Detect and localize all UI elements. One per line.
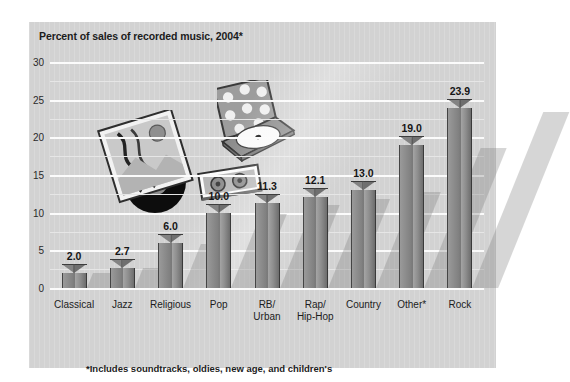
y-tick-label: 15 [33, 170, 44, 181]
bar-center-edge [315, 197, 316, 288]
bar-column: 10.0 [206, 204, 231, 288]
chart-footnote: *Includes soundtracks, oldies, new age, … [86, 363, 332, 374]
bar-value-label: 10.0 [209, 190, 229, 202]
bar-center-edge [218, 213, 219, 288]
bar-column: 2.7 [110, 259, 135, 288]
bar-center-edge [170, 243, 171, 288]
y-tick-label: 25 [33, 94, 44, 105]
x-tick-label: Classical [50, 299, 98, 311]
bar-top-cap [447, 99, 472, 108]
x-tick-label: Country [339, 299, 387, 311]
bar-top-cap [158, 234, 183, 243]
bar-column: 12.1 [303, 188, 328, 288]
bar [62, 273, 87, 288]
bar-face-right [411, 145, 425, 288]
bar [399, 145, 424, 288]
y-tick-label: 5 [38, 245, 44, 256]
bar-center-edge [411, 145, 412, 288]
bar-face-right [218, 213, 232, 288]
bar-column: 2.0 [62, 264, 87, 288]
plot-area: 302520151050 2.02.76.010.011.312.113.019… [50, 62, 484, 288]
chart-title: Percent of sales of recorded music, 2004… [39, 30, 243, 42]
y-tick-label: 20 [33, 132, 44, 143]
bar [110, 268, 135, 288]
bar-value-label: 23.9 [450, 85, 470, 97]
bar-top-cap [399, 136, 424, 145]
bar-series: 2.02.76.010.011.312.113.019.023.9 [50, 62, 484, 288]
bar-face-right [314, 197, 328, 288]
bar-face-right [73, 273, 87, 288]
bar-face-right [266, 203, 280, 288]
bar-face-right [121, 268, 135, 288]
bar-shadow [472, 112, 569, 288]
bar-column: 13.0 [351, 181, 376, 288]
bar-top-cap [110, 259, 135, 268]
gridline-major [50, 288, 484, 290]
bar-cap-seam [218, 204, 219, 213]
x-tick-label: Rap/ Hip-Hop [291, 299, 339, 322]
bar-top-cap [206, 204, 231, 213]
bar-center-edge [459, 108, 460, 288]
bar-face-right [362, 190, 376, 288]
bar [303, 197, 328, 288]
bar [158, 243, 183, 288]
bar [255, 203, 280, 288]
bar-cap-seam [267, 194, 268, 203]
x-tick-label: Jazz [98, 299, 146, 311]
bar-cap-seam [74, 264, 75, 273]
bar [206, 213, 231, 288]
bar-top-cap [62, 264, 87, 273]
y-tick-label: 30 [33, 57, 44, 68]
bar-cap-seam [122, 259, 123, 268]
x-tick-label: RB/ Urban [243, 299, 291, 322]
bar-value-label: 2.7 [115, 245, 130, 257]
x-tick-label: Pop [195, 299, 243, 311]
bar-cap-seam [459, 99, 460, 108]
bar-center-edge [267, 203, 268, 288]
bar-column: 6.0 [158, 234, 183, 288]
bar-cap-seam [363, 181, 364, 190]
bar-center-edge [363, 190, 364, 288]
x-tick-label: Religious [146, 299, 194, 311]
bar-value-label: 6.0 [163, 220, 178, 232]
bar-value-label: 12.1 [305, 174, 325, 186]
bar-column: 19.0 [399, 136, 424, 288]
x-tick-label: Rock [436, 299, 484, 311]
y-tick-label: 0 [38, 283, 44, 294]
bar-value-label: 13.0 [353, 167, 373, 179]
bar-top-cap [255, 194, 280, 203]
bar-column: 11.3 [255, 194, 280, 288]
bar-face-right [170, 243, 184, 288]
bar-center-edge [122, 268, 123, 288]
bar [447, 108, 472, 288]
bar-cap-seam [315, 188, 316, 197]
bar-cap-seam [170, 234, 171, 243]
bar-center-edge [74, 273, 75, 288]
bar-face-right [459, 108, 473, 288]
bar [351, 190, 376, 288]
bar-top-cap [351, 181, 376, 190]
chart-panel: Percent of sales of recorded music, 2004… [29, 22, 496, 368]
bar-value-label: 11.3 [257, 180, 277, 192]
bar-top-cap [303, 188, 328, 197]
x-tick-label: Other* [388, 299, 436, 311]
bar-value-label: 19.0 [401, 122, 421, 134]
bar-value-label: 2.0 [67, 250, 82, 262]
bar-column: 23.9 [447, 99, 472, 288]
y-tick-label: 10 [33, 207, 44, 218]
bar-cap-seam [411, 136, 412, 145]
